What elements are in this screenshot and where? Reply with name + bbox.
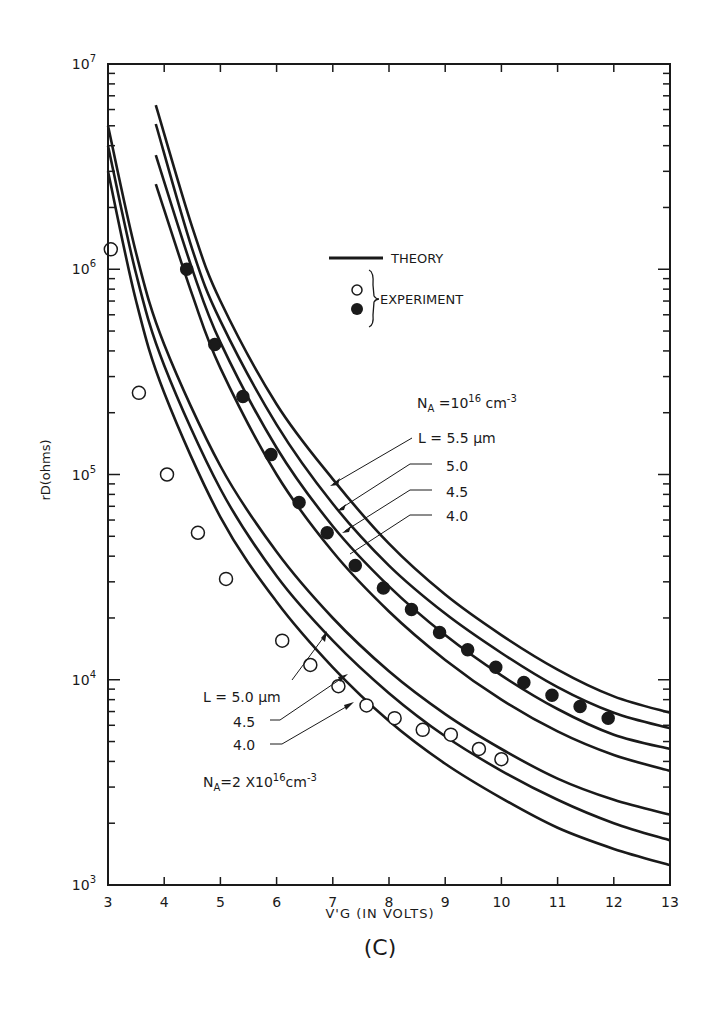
open-data-point — [444, 728, 457, 741]
y-tick-label: 104 — [72, 669, 96, 688]
open-data-point — [416, 723, 429, 736]
y-tick-label: 106 — [72, 258, 96, 277]
annotation-na-1e16: NA =1016 cm-3 L = 5.5 μm 5.0 4.5 4.0 — [330, 393, 517, 554]
x-tick-label: 4 — [160, 894, 169, 910]
open-data-point — [304, 658, 317, 671]
filled-data-point — [574, 701, 586, 713]
svg-text:NA =1016 cm-3: NA =1016 cm-3 — [417, 393, 517, 414]
y-tick-label: 105 — [72, 464, 96, 483]
curve-label-l4.0: 4.0 — [233, 737, 255, 753]
legend-brace — [369, 270, 379, 327]
legend: THEORY EXPERIMENT — [329, 251, 463, 327]
legend-open-circle-icon — [352, 285, 362, 295]
filled-data-point — [265, 449, 277, 461]
theory-curve — [156, 124, 670, 728]
curve-label-5.5: L = 5.5 μm — [418, 430, 496, 446]
filled-data-point — [237, 390, 249, 402]
filled-data-point — [490, 661, 502, 673]
filled-data-point — [546, 689, 558, 701]
theory-curves — [108, 105, 670, 865]
y-tick-label: 103 — [72, 874, 96, 893]
x-axis-label: V'G (IN VOLTS) — [325, 906, 434, 921]
filled-data-point — [462, 644, 474, 656]
svg-text:NA=2 X1016cm-3: NA=2 X1016cm-3 — [203, 772, 317, 793]
annotation-na-2e16: L = 5.0 μm 4.5 4.0 NA=2 X1016cm-3 — [203, 631, 354, 793]
curve-label-5.0: 5.0 — [446, 458, 468, 474]
filled-data-point — [181, 263, 193, 275]
curve-label-4.5: 4.5 — [446, 484, 468, 500]
theory-curve — [108, 171, 670, 865]
y-axis-label: rD(ohms) — [38, 439, 53, 500]
experiment-points — [104, 243, 614, 766]
plot-frame — [108, 64, 670, 885]
legend-theory-label: THEORY — [390, 251, 443, 266]
curve-label-l4.5: 4.5 — [233, 714, 255, 730]
rd-vs-vg-chart: 345678910111213 103104105106107 rD(ohms)… — [0, 0, 719, 1010]
filled-data-point — [377, 582, 389, 594]
filled-data-point — [293, 497, 305, 509]
open-data-point — [132, 386, 145, 399]
open-data-point — [472, 742, 485, 755]
filled-data-point — [518, 676, 530, 688]
y-tick-label: 107 — [72, 53, 96, 72]
panel-label: (C) — [364, 935, 397, 960]
legend-experiment-label: EXPERIMENT — [380, 292, 463, 307]
filled-data-point — [405, 603, 417, 615]
x-tick-label: 10 — [492, 894, 510, 910]
open-data-point — [276, 634, 289, 647]
open-data-point — [104, 243, 117, 256]
open-data-point — [388, 712, 401, 725]
filled-data-point — [321, 527, 333, 539]
theory-curve — [156, 184, 670, 771]
open-data-point — [360, 699, 373, 712]
legend-filled-circle-icon — [351, 303, 363, 315]
filled-data-point — [434, 626, 446, 638]
x-tick-label: 3 — [104, 894, 113, 910]
x-tick-label: 13 — [661, 894, 679, 910]
x-tick-label: 11 — [549, 894, 567, 910]
theory-curve — [156, 105, 670, 713]
x-tick-label: 5 — [216, 894, 225, 910]
filled-data-point — [602, 712, 614, 724]
x-tick-label: 6 — [272, 894, 281, 910]
filled-data-point — [209, 338, 221, 350]
curve-label-l5.0: L = 5.0 μm — [203, 689, 281, 705]
curve-label-4.0: 4.0 — [446, 508, 468, 524]
x-tick-label: 12 — [605, 894, 623, 910]
open-data-point — [332, 680, 345, 693]
open-data-point — [161, 468, 174, 481]
x-tick-label: 9 — [441, 894, 450, 910]
filled-data-point — [349, 560, 361, 572]
y-tick-labels: 103104105106107 — [72, 53, 96, 893]
axis-ticks — [108, 64, 670, 885]
open-data-point — [220, 572, 233, 585]
open-data-point — [191, 526, 204, 539]
theory-curve — [156, 155, 670, 749]
open-data-point — [495, 753, 508, 766]
